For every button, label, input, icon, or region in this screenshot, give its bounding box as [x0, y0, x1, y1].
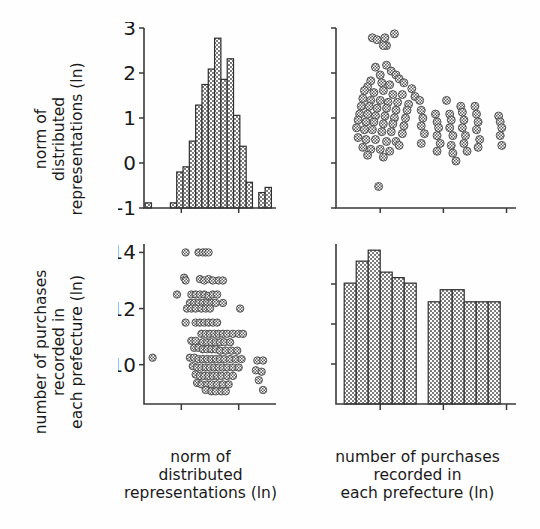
- x-axis-label-right: number of purchases recorded in each pre…: [310, 449, 525, 503]
- y-axis-label-bottom-line1: number of purchases: [33, 252, 51, 452]
- y-tick-label: -1: [118, 196, 136, 220]
- scatter-point: [498, 141, 506, 149]
- scatter-point: [229, 372, 236, 379]
- scatter-point: [378, 128, 386, 136]
- x-axis-label-left-line2: distributed: [108, 467, 293, 485]
- histogram-bar: [202, 85, 208, 208]
- x-tick-label: 14: [494, 413, 519, 418]
- scatter-point: [431, 110, 439, 118]
- y-axis-label-top: norm of distributed representations (ln): [33, 49, 87, 229]
- scatter-point: [417, 106, 425, 114]
- scatter-point: [461, 132, 469, 140]
- scatter-point: [447, 116, 455, 124]
- scatter-point: [416, 96, 424, 104]
- scatter-point: [419, 114, 427, 122]
- scatter-point: [192, 337, 199, 344]
- scatter-point: [398, 91, 406, 99]
- scatter-point: [222, 388, 229, 395]
- histogram-bar: [392, 278, 404, 404]
- scatter-point: [400, 122, 408, 130]
- scatter-point: [386, 147, 394, 155]
- histogram-bar: [246, 182, 252, 208]
- y-axis-label-top-line3: representations (ln): [69, 49, 87, 229]
- scatter-point: [362, 118, 370, 126]
- scatter-point: [383, 137, 391, 145]
- scatter-point: [360, 126, 368, 134]
- y-axis-label-top-line2: distributed: [51, 49, 69, 229]
- scatter-point: [473, 110, 481, 118]
- scatter-point: [496, 132, 504, 140]
- scatter-point: [234, 347, 241, 354]
- scatter-point: [471, 102, 479, 110]
- histogram-bar: [356, 261, 368, 404]
- scatter-point: [182, 319, 189, 326]
- scatter-point: [449, 149, 457, 157]
- scatter-point: [239, 330, 246, 337]
- scatter-point: [365, 102, 373, 110]
- scatter-point: [392, 106, 400, 114]
- scatter-point: [226, 339, 233, 346]
- histogram-bar: [221, 79, 227, 208]
- x-tick-label: 10: [367, 413, 392, 418]
- scatter-point: [370, 118, 378, 126]
- histogram-bar: [227, 59, 233, 208]
- x-tick-label: 0: [175, 413, 188, 418]
- histogram-bar: [368, 250, 380, 404]
- histogram-bar: [234, 115, 240, 208]
- scatter-point: [259, 386, 266, 393]
- scatter-point: [255, 376, 262, 383]
- histogram-bar: [476, 302, 488, 404]
- histogram-bar: [240, 146, 246, 208]
- panel-top-right-plot: [322, 22, 522, 222]
- scatter-point: [354, 134, 362, 142]
- scatter-point: [370, 89, 378, 97]
- scatter-point: [235, 364, 242, 371]
- scatter-point: [420, 130, 428, 138]
- y-axis-label-top-line1: norm of: [33, 49, 51, 229]
- y-tick-label: 12: [118, 297, 136, 321]
- scatter-point: [364, 110, 372, 118]
- scatter-point: [452, 157, 460, 165]
- scatter-point: [386, 81, 394, 89]
- x-tick-label: 2: [232, 413, 245, 418]
- histogram-bar: [177, 172, 183, 208]
- histogram-bar: [344, 283, 356, 404]
- scatter-point: [173, 291, 180, 298]
- scatter-point: [390, 30, 398, 38]
- scatter-point: [394, 98, 402, 106]
- scatter-point: [401, 114, 409, 122]
- scatter-point: [225, 381, 232, 388]
- scatter-point: [460, 116, 468, 124]
- scatter-point: [395, 141, 403, 149]
- scatter-point: [259, 357, 266, 364]
- scatter-point: [238, 355, 245, 362]
- y-axis-label-bottom: number of purchases recorded in each pre…: [33, 252, 87, 452]
- scatter-point: [474, 118, 482, 126]
- scatter-point: [375, 182, 383, 190]
- scatter-point: [398, 130, 406, 138]
- scatter-point: [476, 136, 484, 144]
- scatter-point: [389, 91, 397, 99]
- histogram-bar: [380, 272, 392, 404]
- scatter-point: [449, 132, 457, 140]
- scatter-point: [446, 124, 454, 132]
- scatter-point: [182, 249, 189, 256]
- y-axis-label-bottom-line2: recorded in: [51, 252, 69, 452]
- x-axis-label-left-line1: norm of: [108, 449, 293, 467]
- y-tick-label: 10: [118, 353, 136, 377]
- scatter-point: [436, 139, 444, 147]
- panel-bottom-left-plot: 10121402: [118, 238, 278, 418]
- histogram-bar: [265, 187, 271, 208]
- scatter-point: [236, 305, 243, 312]
- scatter-point: [182, 277, 189, 284]
- y-tick-label: 1: [123, 106, 136, 130]
- histogram-bar: [215, 38, 221, 208]
- histogram-bar: [440, 290, 452, 404]
- x-axis-label-right-line2: recorded in: [310, 467, 525, 485]
- scatter-point: [359, 94, 367, 102]
- scatter-point: [373, 36, 381, 44]
- histogram-bar: [259, 193, 265, 208]
- histogram-bar: [452, 290, 464, 404]
- scatter-point: [379, 120, 387, 128]
- scatter-point: [447, 141, 455, 149]
